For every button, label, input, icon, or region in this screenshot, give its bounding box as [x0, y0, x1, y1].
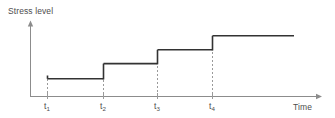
riser-guide-lines [48, 36, 213, 95]
x-tick-label-t1-subscript: 1 [46, 105, 49, 112]
x-tick-label-t3: t3 [154, 101, 160, 111]
step-curve [48, 36, 295, 80]
chart-canvas [0, 0, 335, 118]
x-tick-label-t4: t4 [209, 101, 215, 111]
y-axis-arrowhead [28, 21, 33, 27]
x-tick-label-t2-subscript: 2 [102, 105, 105, 112]
x-tick-label-t2: t2 [100, 101, 106, 111]
stress-level-step-chart: Stress level Time t1 t2 t3 t4 [0, 0, 335, 118]
x-tick-label-t1: t1 [44, 101, 50, 111]
x-axis [30, 94, 322, 100]
y-axis [28, 21, 33, 97]
x-axis-arrowhead [316, 94, 322, 100]
x-tick-label-t3-subscript: 3 [156, 105, 159, 112]
y-axis-title: Stress level [8, 6, 53, 16]
x-axis-title: Time [293, 102, 312, 112]
x-tick-label-t4-subscript: 4 [211, 105, 214, 112]
